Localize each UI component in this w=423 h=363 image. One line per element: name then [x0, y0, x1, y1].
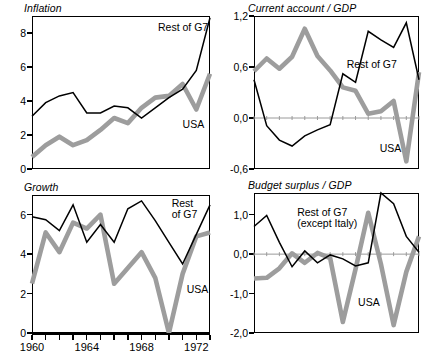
ytick-label-inflation-1: 2 [0, 129, 26, 141]
series-label-line: Rest [172, 197, 194, 209]
economic-indicators-figure: Inflation02468Rest of G7USACurrent accou… [0, 0, 423, 363]
series-label-line: of G7 [172, 208, 198, 220]
series-label-line: Rest of G7 [297, 206, 347, 218]
ytick-label-inflation-0: 0 [0, 163, 26, 175]
plot-area-inflation [32, 16, 210, 169]
xtick-label-1960: 1960 [20, 341, 44, 353]
panel-title-inflation: Inflation [24, 2, 62, 14]
ytick-label-current-account-gdp-0: -0,6 [214, 163, 248, 175]
xtick-1971 [182, 335, 183, 340]
xtick-1965 [100, 335, 101, 340]
ytick-label-growth-3: 6 [0, 209, 26, 221]
ytick-budget-surplus-gdp-0 [249, 332, 254, 333]
ytick-label-growth-0: 0 [0, 327, 26, 339]
xtick-label-1972: 1972 [184, 341, 208, 353]
series-label-rest-of-g7-growth: Restof G7 [172, 198, 198, 221]
ytick-label-current-account-gdp-3: 1,2 [214, 10, 248, 22]
xtick-1970 [168, 335, 169, 340]
series-label-usa-inflation: USA [183, 119, 205, 131]
panel-title-budget-surplus-gdp: Budget surplus / GDP [248, 179, 352, 191]
ytick-label-budget-surplus-gdp-2: 0,0 [214, 248, 248, 260]
ytick-label-growth-1: 2 [0, 288, 26, 300]
ytick-current-account-gdp-0 [249, 168, 254, 169]
ytick-label-inflation-4: 8 [0, 27, 26, 39]
ytick-budget-surplus-gdp-1 [249, 293, 254, 294]
xtick-1962 [59, 335, 60, 340]
ytick-label-inflation-3: 6 [0, 61, 26, 73]
xtick-1961 [45, 335, 46, 340]
ytick-growth-1 [27, 293, 32, 294]
series-label-rest-of-g7-inflation: Rest of G7 [158, 22, 208, 34]
ytick-current-account-gdp-3 [249, 15, 254, 16]
ytick-inflation-0 [27, 168, 32, 169]
xtick-1964 [86, 335, 87, 340]
series-label-rest-of-g7-budget-surplus-gdp: Rest of G7(except Italy) [297, 207, 357, 230]
xtick-1969 [155, 335, 156, 340]
ytick-inflation-2 [27, 100, 32, 101]
ytick-budget-surplus-gdp-3 [249, 214, 254, 215]
series-label-rest-of-g7-current-account-gdp: Rest of G7 [347, 59, 397, 71]
xtick-1972 [196, 335, 197, 340]
ytick-budget-surplus-gdp-2 [249, 253, 254, 254]
xtick-1968 [141, 335, 142, 340]
series-label-usa-current-account-gdp: USA [380, 143, 402, 155]
xtick-1973 [209, 335, 210, 340]
series-label-usa-growth: USA [187, 284, 209, 296]
series-label-usa-budget-surplus-gdp: USA [358, 297, 380, 309]
ytick-label-inflation-2: 4 [0, 95, 26, 107]
ytick-label-budget-surplus-gdp-3: 1,0 [214, 209, 248, 221]
ytick-label-current-account-gdp-2: 0,6 [214, 61, 248, 73]
series-label-line: (except Italy) [297, 217, 357, 229]
xtick-1967 [127, 335, 128, 340]
ytick-current-account-gdp-2 [249, 66, 254, 67]
ytick-growth-3 [27, 214, 32, 215]
ytick-label-current-account-gdp-1: 0,0 [214, 112, 248, 124]
panel-title-growth: Growth [24, 181, 58, 193]
ytick-current-account-gdp-1 [249, 117, 254, 118]
xtick-label-1968: 1968 [129, 341, 153, 353]
panel-title-current-account-gdp: Current account / GDP [248, 2, 356, 14]
ytick-label-budget-surplus-gdp-0: -2,0 [214, 327, 248, 339]
ytick-inflation-1 [27, 134, 32, 135]
xtick-1960 [31, 335, 32, 340]
xtick-1966 [113, 335, 114, 340]
ytick-inflation-4 [27, 32, 32, 33]
xtick-1963 [72, 335, 73, 340]
ytick-label-budget-surplus-gdp-1: -1,0 [214, 288, 248, 300]
ytick-label-growth-2: 4 [0, 248, 26, 260]
ytick-inflation-3 [27, 66, 32, 67]
ytick-growth-2 [27, 253, 32, 254]
xtick-label-1964: 1964 [75, 341, 99, 353]
